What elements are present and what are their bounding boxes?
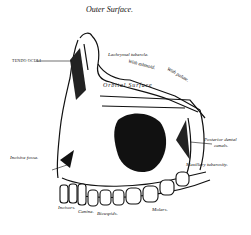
maxilla-illustration xyxy=(0,0,251,235)
canine-label: Canine. xyxy=(78,209,94,214)
maxilla-diagram: Outer Surface. TENDO OCULI Lachrymal tub… xyxy=(0,0,251,235)
incisors-label: Incisors. xyxy=(58,205,75,210)
bicuspids-label: Bicuspids. xyxy=(97,211,118,216)
orbital-surface-label: Orbital Surface xyxy=(103,82,153,88)
posterior-dental-label: Posterior dental xyxy=(204,137,237,142)
maxillary-tuberosity-label: Maxillary tuberosity. xyxy=(186,162,228,167)
title-label: Outer Surface. xyxy=(86,6,133,14)
tendo-oculi-label: TENDO OCULI xyxy=(12,59,41,63)
lachrymal-tubercle-label: Lachrymal tubercle. xyxy=(108,52,148,57)
posterior-dental-label-2: canals. xyxy=(214,143,228,148)
molars-label: Molars. xyxy=(152,207,168,212)
incisive-fossa-label: Incisive fossa. xyxy=(10,155,38,160)
